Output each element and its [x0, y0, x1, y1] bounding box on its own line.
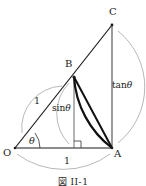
label-radius-ob: 1	[34, 96, 40, 106]
label-sin-theta-arg: θ	[65, 103, 70, 113]
vertex-a-dot	[111, 147, 114, 150]
segment-oc	[15, 25, 112, 148]
label-base-oa: 1	[64, 156, 70, 166]
right-angle-marker	[74, 141, 81, 148]
label-tan-theta-arg: θ	[127, 80, 132, 90]
label-point-o: O	[3, 148, 11, 158]
chord-ba	[74, 77, 112, 148]
label-tan-theta-fn: tan	[112, 80, 127, 90]
figure-container: O A B C 1 1 sinθ tanθ θ 図 II-1	[0, 0, 146, 186]
vertex-c-dot	[111, 24, 114, 27]
label-sin-theta: sinθ	[52, 104, 71, 113]
label-angle-theta: θ	[29, 136, 35, 146]
angle-theta-arc	[35, 133, 40, 148]
geometry-diagram	[0, 0, 146, 186]
label-sin-theta-fn: sin	[52, 103, 65, 113]
vertex-b-dot	[72, 75, 75, 78]
figure-caption: 図 II-1	[0, 175, 146, 186]
label-point-c: C	[109, 7, 117, 17]
label-point-b: B	[65, 59, 73, 69]
vertex-o-dot	[14, 147, 17, 150]
label-point-a: A	[114, 149, 121, 159]
label-tan-theta: tanθ	[112, 81, 132, 90]
